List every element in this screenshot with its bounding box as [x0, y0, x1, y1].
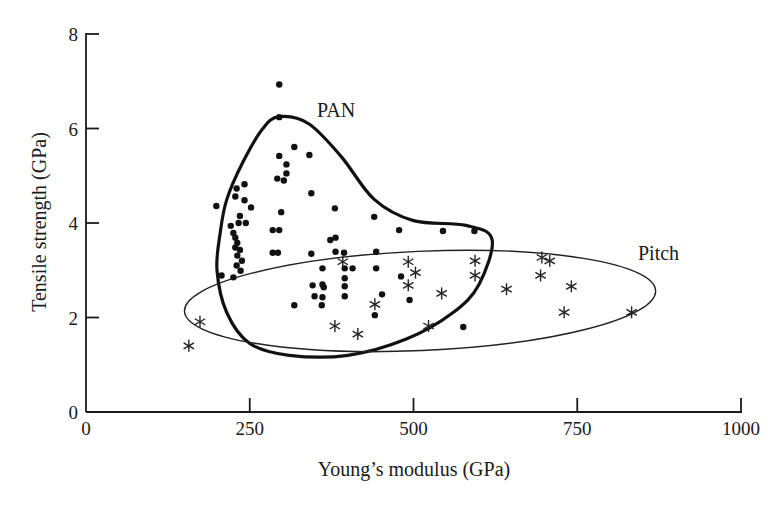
pan-data-point — [373, 249, 379, 255]
pan-data-point — [234, 252, 240, 258]
y-axis-ticks: 02468 — [69, 24, 100, 423]
pan-data-point — [319, 302, 325, 308]
pan-data-point — [349, 265, 355, 271]
pitch-data-point — [501, 283, 511, 295]
x-tick-label: 500 — [399, 418, 428, 439]
pan-data-point — [274, 175, 280, 181]
pan-data-point — [460, 324, 466, 330]
pitch-data-point — [403, 279, 413, 291]
pitch-region-outline — [182, 241, 657, 361]
pitch-data-point — [436, 287, 446, 299]
pan-data-point — [248, 204, 254, 210]
pan-data-point — [319, 294, 325, 300]
pan-data-point — [213, 203, 219, 209]
pan-data-point — [241, 181, 247, 187]
pitch-data-point — [330, 320, 340, 332]
pan-data-point — [373, 265, 379, 271]
pan-data-point — [276, 227, 282, 233]
pan-data-point — [228, 223, 234, 229]
y-tick-label: 2 — [69, 308, 79, 329]
pitch-data-point — [470, 255, 480, 267]
pan-data-point — [237, 247, 243, 253]
pitch-data-point — [370, 298, 380, 310]
pan-data-point — [398, 273, 404, 279]
pan-data-point — [281, 177, 287, 183]
pan-data-point — [396, 227, 402, 233]
y-tick-label: 0 — [69, 402, 79, 423]
pitch-data-point — [403, 256, 413, 268]
pan-data-point — [471, 228, 477, 234]
pitch-data-point — [410, 267, 420, 279]
pan-data-point — [308, 190, 314, 196]
pan-data-point — [306, 152, 312, 158]
pan-data-point — [309, 282, 315, 288]
pan-data-point — [276, 153, 282, 159]
pan-data-point — [235, 220, 241, 226]
pan-data-point — [341, 250, 347, 256]
pitch-data-point — [559, 306, 569, 318]
pan-data-point — [291, 302, 297, 308]
pan-data-point — [218, 272, 224, 278]
pitch-data-point — [545, 255, 555, 267]
pan-data-point — [372, 312, 378, 318]
pan-data-point — [237, 213, 243, 219]
pitch-data-point — [566, 280, 576, 292]
pan-data-point — [276, 81, 282, 87]
pan-data-point — [233, 262, 239, 268]
pan-data-point — [243, 220, 249, 226]
pitch-label: Pitch — [638, 242, 679, 264]
pan-data-point — [406, 297, 412, 303]
pan-data-point — [371, 214, 377, 220]
pan-label: PAN — [317, 99, 355, 121]
pan-data-point — [311, 293, 317, 299]
pan-data-point — [308, 251, 314, 257]
pan-region-outline — [217, 116, 493, 357]
region-outlines — [182, 116, 657, 360]
scatter-chart: 02468 02505007501000 Tensile strength (G… — [0, 0, 781, 509]
pan-data-point — [278, 209, 284, 215]
axes: 02468 02505007501000 — [69, 24, 761, 439]
pitch-data-point — [353, 328, 363, 340]
x-tick-label: 0 — [81, 418, 91, 439]
pan-data-point — [232, 193, 238, 199]
pan-data-point — [332, 205, 338, 211]
y-axis-title: Tensile strength (GPa) — [28, 132, 51, 312]
pan-data-point — [342, 283, 348, 289]
pan-data-point — [275, 250, 281, 256]
y-tick-label: 6 — [69, 119, 79, 140]
pitch-data-point — [470, 269, 480, 281]
pan-data-point — [283, 170, 289, 176]
pan-data-point — [332, 234, 338, 240]
pan-data-point — [241, 197, 247, 203]
pan-data-point — [291, 144, 297, 150]
x-tick-label: 250 — [236, 418, 265, 439]
x-axis-title: Young’s modulus (GPa) — [318, 458, 510, 481]
pan-data-point — [230, 274, 236, 280]
pan-data-point — [233, 185, 239, 191]
x-tick-label: 750 — [563, 418, 592, 439]
pan-data-point — [440, 228, 446, 234]
y-tick-label: 4 — [69, 213, 79, 234]
x-axis-ticks: 02505007501000 — [81, 398, 760, 439]
pan-data-point — [276, 114, 282, 120]
y-tick-label: 8 — [69, 24, 79, 45]
pan-data-point — [283, 161, 289, 167]
x-tick-label: 1000 — [722, 418, 760, 439]
pan-data-point — [332, 249, 338, 255]
pitch-data-point — [184, 340, 194, 352]
pan-data-point — [269, 227, 275, 233]
pitch-data-point — [535, 269, 545, 281]
pan-data-point — [239, 258, 245, 264]
pan-data-point — [319, 265, 325, 271]
pan-data-point — [321, 284, 327, 290]
pan-data-point — [342, 275, 348, 281]
pan-data-point — [237, 268, 243, 274]
pan-data-point — [342, 293, 348, 299]
pan-data-point — [379, 291, 385, 297]
